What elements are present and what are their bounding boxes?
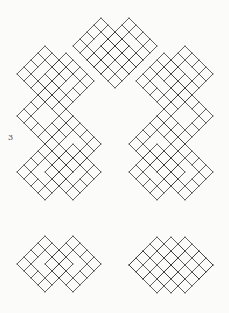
figure-plate: 3 [0,0,229,313]
bottom-left-cluster-shape [17,236,101,292]
geometric-figure [0,0,229,313]
bottom-right-cluster-shape [129,237,213,293]
arch-shape [17,18,213,200]
